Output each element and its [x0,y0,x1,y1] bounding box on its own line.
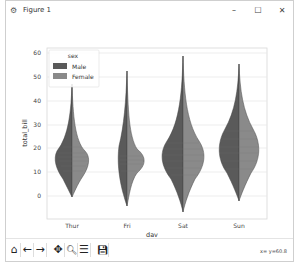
y-axis-label: total_bill [21,119,29,147]
figure-canvas[interactable]: 0 10 20 30 40 50 60 total_bill [6,23,293,237]
x-axis-label: day [146,231,158,237]
maximize-button[interactable]: ☐ [251,5,265,17]
decorative-strip [85,268,285,271]
window-title: Figure 1 [23,6,51,14]
xtick-sun: Sun [233,222,245,229]
back-button[interactable]: ← [21,243,34,257]
figure-window: ⚙ Figure 1 – ☐ ✕ 0 10 20 30 [5,0,294,262]
legend: sex Male Female [49,50,99,87]
ytick-0: 0 [37,192,41,199]
pan-button[interactable]: ✥ [52,243,65,257]
legend-label-female: Female [72,73,94,80]
violin-plot: 0 10 20 30 40 50 60 total_bill [6,23,295,237]
legend-swatch-female [53,73,67,79]
minimize-button[interactable]: – [227,5,241,17]
xtick-thur: Thur [64,222,79,229]
legend-label-male: Male [72,63,87,70]
x-tick-labels: Thur Fri Sat Sun [64,222,245,229]
save-button[interactable]: 💾︎ [96,243,109,257]
forward-button[interactable]: → [34,243,47,257]
title-bar: ⚙ Figure 1 – ☐ ✕ [6,1,293,23]
figure-icon: ⚙ [10,6,20,16]
ytick-30: 30 [33,121,41,128]
navigation-toolbar: ⌂ ← → ✥ 🔍︎ ☰ 💾︎ x= y=60.8 [6,238,293,263]
y-tick-labels: 0 10 20 30 40 50 60 [33,49,41,199]
xtick-fri: Fri [123,222,130,229]
ytick-50: 50 [33,73,41,80]
legend-swatch-male [53,63,67,69]
xtick-sat: Sat [178,222,188,229]
home-button[interactable]: ⌂ [8,243,21,257]
zoom-button[interactable]: 🔍︎ [65,243,78,257]
ytick-40: 40 [33,97,41,104]
legend-title: sex [68,52,79,59]
cursor-coordinates: x= y=60.8 [260,248,287,254]
ytick-20: 20 [33,144,41,151]
ytick-60: 60 [33,49,41,56]
ytick-10: 10 [33,168,41,175]
configure-subplots-button[interactable]: ☰ [78,243,91,257]
close-button[interactable]: ✕ [275,5,289,17]
